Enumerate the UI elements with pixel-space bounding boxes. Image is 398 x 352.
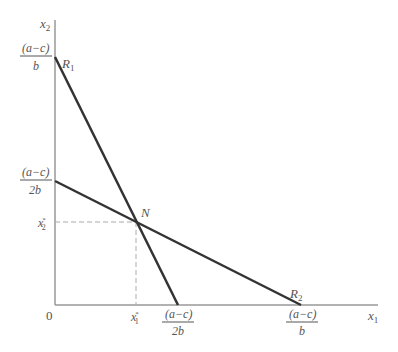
x-tick-a-c-over-b: (a−c) b — [286, 307, 318, 338]
svg-text:b: b — [299, 324, 305, 338]
svg-text:2b: 2b — [29, 183, 41, 197]
reaction-diagram: x2 x1 0 R1 R2 N (a−c) b (a−c) 2b x*2 x*1… — [0, 0, 398, 352]
svg-text:b: b — [33, 59, 39, 73]
r2-line — [55, 181, 301, 305]
svg-text:(a−c): (a−c) — [22, 165, 49, 179]
y-axis-label: x2 — [39, 16, 50, 33]
r2-label: R2 — [289, 286, 302, 303]
x-tick-x1-star: x*1 — [130, 310, 139, 326]
intersection-label: N — [140, 205, 151, 220]
x-axis-label: x1 — [367, 308, 378, 325]
origin-label: 0 — [46, 308, 53, 323]
svg-text:(a−c): (a−c) — [22, 41, 49, 55]
x-tick-a-c-over-2b: (a−c) 2b — [162, 307, 194, 338]
r1-line — [55, 57, 178, 305]
r1-label: R1 — [61, 56, 74, 73]
svg-text:(a−c): (a−c) — [165, 307, 192, 321]
y-tick-a-c-over-b: (a−c) b — [20, 41, 52, 73]
svg-text:(a−c): (a−c) — [289, 307, 316, 321]
y-tick-x2-star: x*2 — [37, 216, 46, 232]
svg-text:2b: 2b — [172, 324, 184, 338]
y-tick-a-c-over-2b: (a−c) 2b — [20, 165, 52, 197]
